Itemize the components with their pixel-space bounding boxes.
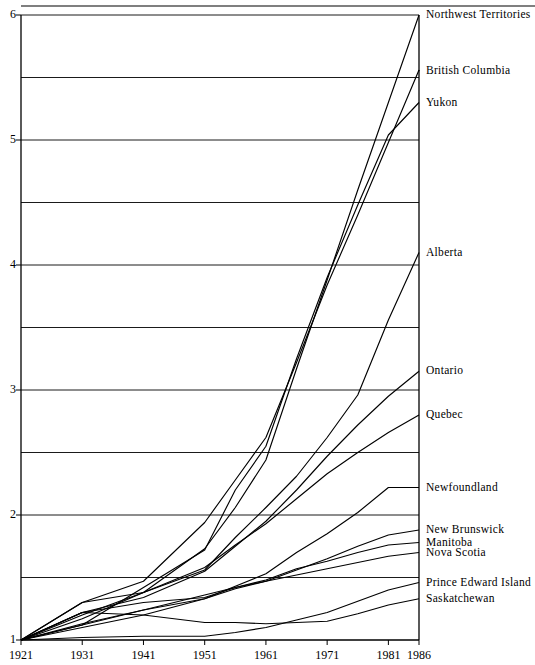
y-axis-label-3: 3 xyxy=(0,382,16,397)
x-axis-label-1971: 1971 xyxy=(307,648,347,663)
x-axis-label-1986: 1986 xyxy=(399,648,439,663)
y-axis-label-2: 2 xyxy=(0,507,16,522)
y-axis-label-6: 6 xyxy=(0,7,16,22)
series-line-newfoundland xyxy=(21,488,419,641)
series-label-yukon: Yukon xyxy=(426,96,458,108)
series-label-saskatchewan: Saskatchewan xyxy=(426,592,495,604)
series-line-alberta xyxy=(21,253,419,641)
series-line-new-brunswick xyxy=(21,530,419,640)
y-axis-label-5: 5 xyxy=(0,132,16,147)
series-label-newfoundland: Newfoundland xyxy=(426,481,498,493)
series-line-ontario xyxy=(21,371,419,640)
x-axis-label-1961: 1961 xyxy=(246,648,286,663)
series-label-new-brunswick: New Brunswick xyxy=(426,523,504,535)
y-axis-label-4: 4 xyxy=(0,257,16,272)
chart-figure: Northwest TerritoriesBritish ColumbiaYuk… xyxy=(0,0,535,665)
series-label-nova-scotia: Nova Scotia xyxy=(426,546,486,558)
series-label-british-columbia: British Columbia xyxy=(426,64,510,76)
series-label-quebec: Quebec xyxy=(426,408,463,420)
series-label-alberta: Alberta xyxy=(426,246,463,258)
series-label-northwest-territories: Northwest Territories xyxy=(426,8,531,20)
series-label-ontario: Ontario xyxy=(426,364,463,376)
x-axis-label-1951: 1951 xyxy=(185,648,225,663)
x-axis-label-1931: 1931 xyxy=(62,648,102,663)
x-axis-label-1941: 1941 xyxy=(123,648,163,663)
series-label-prince-edward-island: Prince Edward Island xyxy=(426,576,531,588)
series-line-nova-scotia xyxy=(21,553,419,641)
y-axis-label-1: 1 xyxy=(0,632,16,647)
x-axis-label-1921: 1921 xyxy=(1,648,41,663)
